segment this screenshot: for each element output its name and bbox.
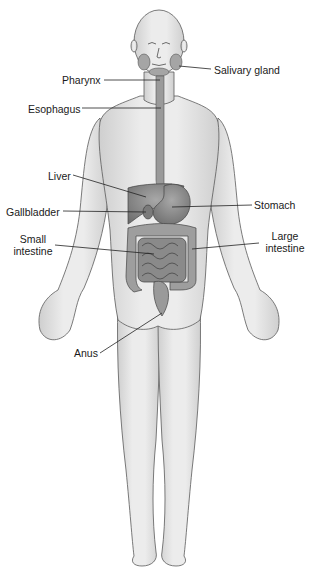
label-salivary-gland: Salivary gland — [214, 64, 280, 76]
label-pharynx: Pharynx — [62, 74, 101, 86]
label-anus: Anus — [74, 347, 98, 359]
label-large-intestine-line2: intestine — [262, 242, 308, 254]
label-stomach: Stomach — [254, 199, 295, 211]
label-large-intestine: Large intestine — [262, 230, 308, 254]
label-small-intestine-line1: Small — [12, 233, 54, 245]
label-small-intestine: Small intestine — [12, 233, 54, 257]
label-gallbladder: Gallbladder — [6, 206, 60, 218]
label-liver: Liver — [48, 170, 71, 182]
digestive-system-figure — [0, 0, 317, 574]
label-large-intestine-line1: Large — [262, 230, 308, 242]
label-small-intestine-line2: intestine — [12, 245, 54, 257]
small-intestine-shape — [138, 238, 186, 282]
label-esophagus: Esophagus — [28, 103, 81, 115]
